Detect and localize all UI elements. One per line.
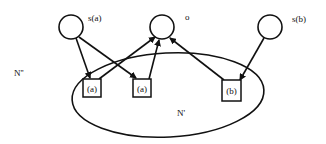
edge-box-b-to-o [170,38,224,80]
node-s-b-label: s(b) [292,14,306,24]
network-diagram: (a) (a) (b) s(a) o s(b) N' N'' [0,0,326,144]
region-n-prime-label: N' [177,108,185,118]
node-s-a-label: s(a) [88,13,102,23]
box-a1-label: (a) [87,84,97,94]
edge-box-a2-to-o [149,40,159,79]
region-n-double-prime-label: N'' [14,68,24,78]
node-o-label: o [185,12,190,22]
node-s-a [59,15,83,39]
box-a2-label: (a) [137,84,147,94]
box-b-label: (b) [226,86,237,96]
edge-s-b-to-box-b [240,38,264,80]
node-o [150,15,174,39]
node-s-b [258,15,282,39]
